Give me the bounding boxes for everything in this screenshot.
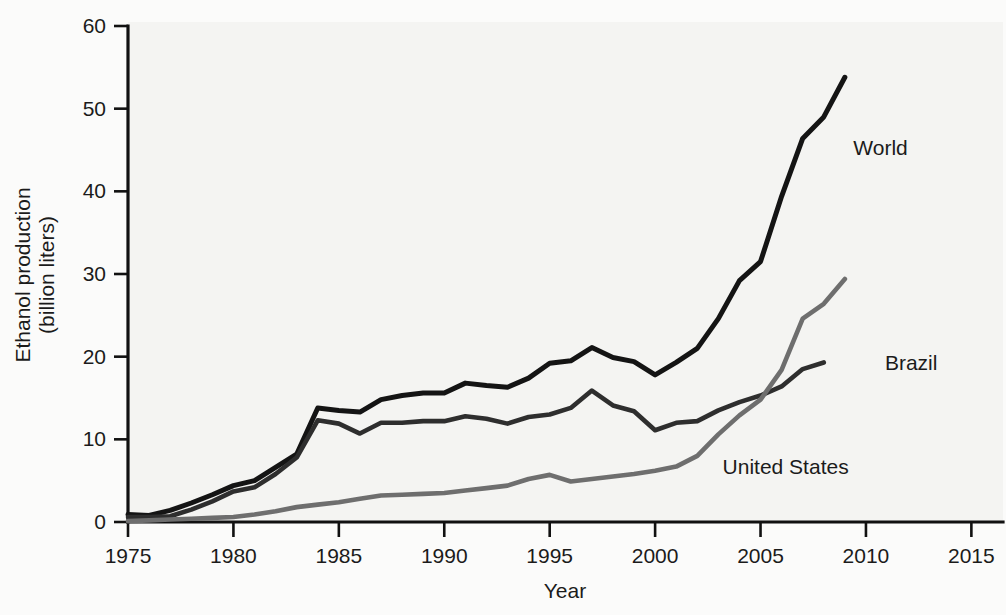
x-tick-label: 1990 [421, 544, 468, 567]
series-label-united-states: United States [723, 455, 849, 478]
x-tick-label: 1985 [315, 544, 362, 567]
x-tick-label: 1995 [526, 544, 573, 567]
y-tick-label: 60 [83, 14, 106, 37]
y-tick-label: 40 [83, 179, 106, 202]
series-line-world [128, 77, 845, 515]
x-tick-label: 2000 [632, 544, 679, 567]
x-tick-label: 2005 [737, 544, 784, 567]
series-labels: WorldBrazilUnited States [723, 136, 938, 479]
y-axis-title-line2: (billion liters) [35, 216, 58, 334]
ethanol-production-line-chart: 0102030405060 19751980198519901995200020… [0, 0, 1006, 615]
series-label-brazil: Brazil [885, 351, 938, 374]
x-tick-label: 2010 [843, 544, 890, 567]
y-tick-label: 0 [94, 510, 106, 533]
series-label-world: World [853, 136, 907, 159]
y-tick-label: 50 [83, 97, 106, 120]
y-tick-label: 10 [83, 427, 106, 450]
chart-page: 0102030405060 19751980198519901995200020… [0, 0, 1006, 615]
x-tick-label: 1980 [210, 544, 257, 567]
x-axis-ticks: 197519801985199019952000200520102015 [105, 522, 995, 567]
x-tick-label: 2015 [948, 544, 995, 567]
x-axis-title: Year [544, 579, 586, 602]
x-tick-label: 1975 [105, 544, 152, 567]
y-axis-ticks: 0102030405060 [83, 14, 128, 533]
y-tick-label: 30 [83, 262, 106, 285]
y-tick-label: 20 [83, 345, 106, 368]
y-axis-title-line1: Ethanol production [11, 187, 34, 362]
